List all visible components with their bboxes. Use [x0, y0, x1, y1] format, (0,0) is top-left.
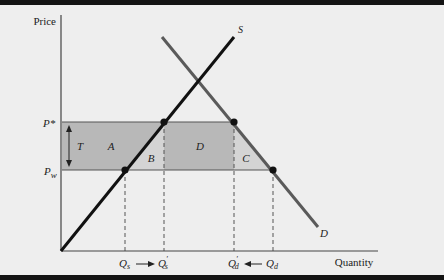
region-a-label: A: [107, 140, 115, 152]
arrow-right-icon: [148, 261, 155, 267]
tariff-label: T: [77, 140, 84, 152]
region-b-label: B: [148, 152, 155, 164]
qs-prime-label: Q′s: [158, 255, 168, 271]
p-star-label: P*: [42, 117, 56, 129]
demand-label: D: [319, 227, 328, 239]
qd-label: Qd: [266, 257, 279, 271]
supply-demand-diagram: Price Quantity S D P* Pw T A B D C Qs Q′…: [0, 0, 444, 280]
qd-prime-label: Q′d: [228, 255, 240, 271]
region-d-label: D: [195, 140, 204, 152]
point-qd-prime-pstar: [230, 118, 237, 125]
p-world-label: Pw: [43, 165, 57, 180]
supply-label: S: [238, 24, 243, 35]
y-axis-label: Price: [33, 15, 56, 27]
qs-label: Qs: [119, 257, 130, 271]
diagram-frame: Price Quantity S D P* Pw T A B D C Qs Q′…: [0, 0, 444, 280]
point-qs-pw: [121, 166, 128, 173]
bottom-border: [0, 275, 444, 280]
point-qs-prime-pstar: [160, 118, 167, 125]
region-c-label: C: [242, 152, 250, 164]
x-axis-label: Quantity: [335, 256, 374, 268]
point-qd-pw: [269, 166, 276, 173]
